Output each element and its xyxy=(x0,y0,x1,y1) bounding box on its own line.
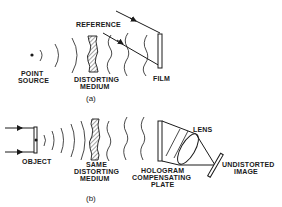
spherical-wavefronts xyxy=(40,38,77,73)
point-source-icon xyxy=(30,53,33,56)
point-source-label-2: SOURCE xyxy=(18,77,49,84)
film-plate xyxy=(158,34,162,68)
panel-a: POINT SOURCE REFERENCE DISTORTING MEDIUM… xyxy=(18,11,170,103)
hologram-label-2: COMPENSATING xyxy=(132,174,191,181)
panel-b-caption: (b) xyxy=(86,194,96,203)
lens-label: LENS xyxy=(193,126,213,133)
panel-a-caption: (a) xyxy=(86,94,96,103)
hologram-plate xyxy=(158,121,162,161)
same-medium-label-2: DISTORTING xyxy=(74,168,119,175)
object-label: OBJECT xyxy=(22,158,52,165)
hologram-label: HOLOGRAM xyxy=(141,167,184,174)
reference-label: REFERENCE xyxy=(76,21,121,28)
object-wavefronts xyxy=(44,121,85,160)
same-medium-label: SAME xyxy=(86,161,107,168)
film-label: FILM xyxy=(153,75,170,82)
panel-b: OBJECT SAME DISTORTING MEDIUM HOLOGRAM C… xyxy=(5,117,275,203)
holography-diagram: POINT SOURCE REFERENCE DISTORTING MEDIUM… xyxy=(0,0,282,207)
distorting-medium-label-2: MEDIUM xyxy=(80,83,110,90)
undistorted-image-label-2: IMAGE xyxy=(234,168,258,175)
point-source-label: POINT xyxy=(21,70,44,77)
lens-shape xyxy=(173,131,202,167)
undistorted-image-label: UNDISTORTED xyxy=(222,161,275,168)
same-medium-label-3: MEDIUM xyxy=(80,175,110,182)
same-distorting-medium-shape xyxy=(89,119,99,160)
reference-beam xyxy=(103,11,160,66)
distorting-medium-shape xyxy=(87,36,98,72)
distorting-medium-label: DISTORTING xyxy=(74,76,119,83)
hologram-label-3: PLATE xyxy=(151,181,175,188)
distorted-wavefronts-b xyxy=(107,117,145,161)
